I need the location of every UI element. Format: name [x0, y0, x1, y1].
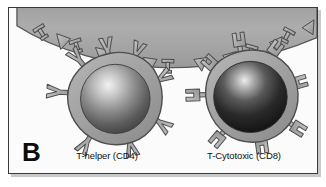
- t-cytotoxic-receptor: [186, 89, 208, 102]
- t-helper-nucleus: [81, 64, 151, 133]
- t-cytotoxic-cell-label: T-Cytotoxic (CD8): [177, 150, 311, 161]
- figure-panel: B T-helper (CD4) T-Cytotoxic (CD8): [0, 0, 326, 187]
- panel-letter: B: [22, 139, 41, 165]
- panel-frame: B T-helper (CD4) T-Cytotoxic (CD8): [8, 7, 318, 174]
- t-helper-cell-label: T-helper (CD4): [47, 150, 167, 161]
- illustration-artwork: [9, 8, 317, 173]
- t-cytotoxic-nucleus: [214, 61, 288, 132]
- t-helper-receptor: [46, 84, 68, 99]
